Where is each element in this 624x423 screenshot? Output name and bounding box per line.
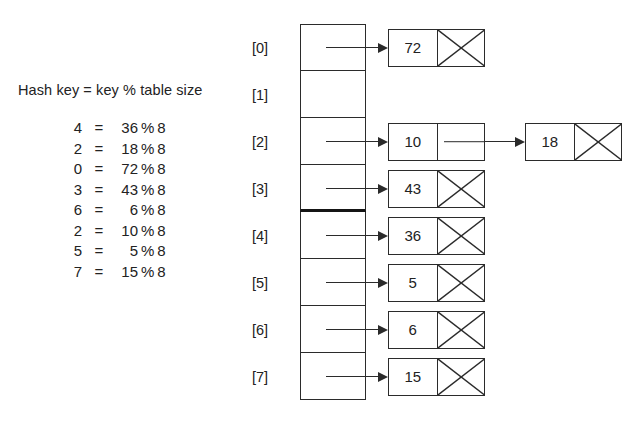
bucket-index-label-7: [7]: [252, 369, 268, 385]
equation-row: 2=18%8: [56, 141, 166, 162]
arrowhead-icon-chain-2: [515, 137, 525, 147]
equation-equals-sign: =: [82, 202, 116, 223]
node-value: 15: [389, 359, 437, 395]
equation-modulo-operator: %: [138, 223, 157, 239]
list-node-2-1: 18: [525, 123, 622, 161]
equation-expression: 15%8: [116, 264, 166, 285]
arrowhead-icon-bucket-5: [378, 278, 388, 288]
equation-row: 5=5%8: [56, 243, 166, 264]
equation-dividend: 72: [116, 161, 138, 177]
equation-row: 4=36%8: [56, 120, 166, 141]
equation-hash-key: 7: [56, 264, 82, 285]
null-pointer-icon: [437, 30, 485, 66]
chain-arrow-bucket-7: [326, 376, 380, 378]
equation-hash-key: 2: [56, 141, 82, 162]
equation-expression: 10%8: [116, 223, 166, 244]
chain-arrow-bucket-5: [326, 282, 380, 284]
equation-modulo-operator: %: [138, 161, 157, 177]
bucket-index-label-3: [3]: [252, 181, 268, 197]
equation-modulo-operator: %: [138, 141, 157, 157]
equation-expression: 5%8: [116, 243, 166, 264]
equation-row: 2=10%8: [56, 223, 166, 244]
equation-dividend: 5: [116, 243, 138, 259]
bucket-index-label-5: [5]: [252, 275, 268, 291]
equation-hash-key: 6: [56, 202, 82, 223]
equation-dividend: 43: [116, 182, 138, 198]
node-value: 6: [389, 312, 437, 348]
null-pointer-icon: [437, 171, 485, 207]
bucket-cell-1[interactable]: [300, 71, 366, 118]
equation-divisor: 8: [157, 160, 165, 177]
node-value: 18: [526, 124, 574, 160]
equation-expression: 36%8: [116, 120, 166, 141]
bucket-index-label-6: [6]: [252, 322, 268, 338]
list-node-6-0: 6: [388, 311, 485, 349]
equation-equals-sign: =: [82, 161, 116, 182]
equation-row: 6=6%8: [56, 202, 166, 223]
list-node-5-0: 5: [388, 264, 485, 302]
equation-equals-sign: =: [82, 120, 116, 141]
equation-divisor: 8: [157, 119, 165, 136]
equation-modulo-operator: %: [138, 202, 157, 218]
equation-expression: 18%8: [116, 141, 166, 162]
node-value: 36: [389, 218, 437, 254]
chain-arrow-bucket-0: [326, 47, 380, 49]
hash-formula-title: Hash key = key % table size: [18, 82, 268, 98]
equation-hash-key: 3: [56, 182, 82, 203]
equation-divisor: 8: [157, 181, 165, 198]
node-value: 10: [389, 124, 437, 160]
bucket-index-label-4: [4]: [252, 228, 268, 244]
equation-dividend: 18: [116, 141, 138, 157]
list-node-7-0: 15: [388, 358, 485, 396]
bucket-index-label-1: [1]: [252, 87, 268, 103]
null-pointer-icon: [437, 265, 485, 301]
chain-arrow-bucket-6: [326, 329, 380, 331]
equation-equals-sign: =: [82, 141, 116, 162]
equation-dividend: 10: [116, 223, 138, 239]
equation-modulo-operator: %: [138, 182, 157, 198]
null-pointer-icon: [437, 218, 485, 254]
list-node-3-0: 43: [388, 170, 485, 208]
equation-divisor: 8: [157, 222, 165, 239]
list-node-0-0: 72: [388, 29, 485, 67]
equation-row: 3=43%8: [56, 182, 166, 203]
hash-table-diagram: Hash key = key % table size 4=36%82=18%8…: [0, 0, 624, 423]
bucket-index-label-2: [2]: [252, 134, 268, 150]
equation-equals-sign: =: [82, 223, 116, 244]
arrowhead-icon-bucket-2: [378, 137, 388, 147]
equation-modulo-operator: %: [138, 120, 157, 136]
equation-equals-sign: =: [82, 264, 116, 285]
null-pointer-icon: [437, 312, 485, 348]
equation-hash-key: 4: [56, 120, 82, 141]
chain-arrow-bucket-3: [326, 188, 380, 190]
arrowhead-icon-bucket-6: [378, 325, 388, 335]
chain-arrow-chain-2: [485, 141, 517, 143]
hash-table-column: [300, 24, 366, 400]
list-node-4-0: 36: [388, 217, 485, 255]
equation-dividend: 15: [116, 264, 138, 280]
equation-dividend: 6: [116, 202, 138, 218]
formula-block: Hash key = key % table size 4=36%82=18%8…: [18, 82, 268, 284]
node-value: 43: [389, 171, 437, 207]
equation-divisor: 8: [157, 140, 165, 157]
equation-divisor: 8: [157, 242, 165, 259]
equation-divisor: 8: [157, 201, 165, 218]
equation-dividend: 36: [116, 120, 138, 136]
equation-modulo-operator: %: [138, 264, 157, 280]
equation-expression: 72%8: [116, 161, 166, 182]
null-pointer-icon: [574, 124, 622, 160]
equation-row: 7=15%8: [56, 264, 166, 285]
node-value: 72: [389, 30, 437, 66]
chain-arrow-bucket-4: [326, 235, 380, 237]
arrowhead-icon-bucket-0: [378, 43, 388, 53]
equation-equals-sign: =: [82, 243, 116, 264]
arrowhead-icon-bucket-7: [378, 372, 388, 382]
equation-modulo-operator: %: [138, 243, 157, 259]
node-value: 5: [389, 265, 437, 301]
equation-divisor: 8: [157, 263, 165, 280]
equation-row: 0=72%8: [56, 161, 166, 182]
chain-arrow-bucket-2: [326, 141, 380, 143]
equation-hash-key: 0: [56, 161, 82, 182]
equations-table: 4=36%82=18%80=72%83=43%86=6%82=10%85=5%8…: [56, 120, 166, 284]
equation-expression: 6%8: [116, 202, 166, 223]
